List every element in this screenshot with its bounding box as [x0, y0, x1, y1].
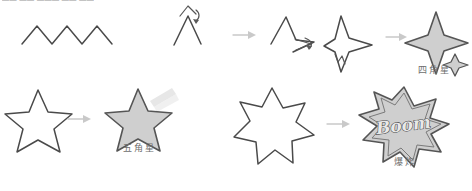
step-arrow-icon	[68, 115, 91, 123]
label-five-point-star: 五角星	[108, 141, 170, 154]
step-arrow-icon	[233, 31, 256, 39]
five-point-star-outline	[5, 90, 72, 152]
four-point-star-outline	[324, 16, 372, 72]
chevron-with-rotate-arrow	[174, 6, 201, 45]
seven-point-star-outline	[234, 88, 314, 164]
label-four-point-star: 四角星	[403, 63, 465, 76]
zigzag-line	[22, 26, 112, 44]
partial-star-with-arrow	[271, 17, 314, 52]
step-arrow-icon	[327, 120, 350, 128]
label-explosion: 爆炸	[374, 155, 436, 168]
step-arrow-icon	[386, 33, 407, 41]
